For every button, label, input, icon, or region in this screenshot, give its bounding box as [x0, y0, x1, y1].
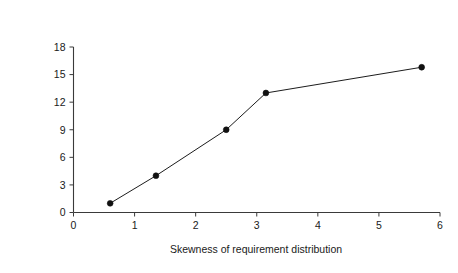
x-tick-label: 5 — [376, 219, 382, 231]
chart-figure: 0369121518 0123456 Skewness of requireme… — [0, 0, 458, 273]
data-point — [223, 127, 229, 133]
y-tick-label: 15 — [54, 68, 66, 80]
y-tick-label: 3 — [60, 179, 66, 191]
y-tick-label: 18 — [54, 41, 66, 53]
chart-axes — [74, 47, 441, 213]
data-point — [419, 64, 425, 70]
y-axis-ticks: 0369121518 — [54, 41, 74, 219]
data-series — [107, 64, 424, 206]
y-tick-label: 12 — [54, 96, 66, 108]
line-chart-canvas: 0369121518 0123456 Skewness of requireme… — [0, 0, 458, 273]
x-axis-ticks: 0123456 — [71, 213, 444, 231]
x-tick-label: 6 — [437, 219, 443, 231]
y-tick-label: 0 — [60, 206, 66, 218]
x-tick-label: 0 — [71, 219, 77, 231]
y-tick-label: 6 — [60, 151, 66, 163]
series-line-path — [110, 67, 422, 203]
data-point — [107, 200, 113, 206]
x-tick-label: 3 — [254, 219, 260, 231]
y-tick-label: 9 — [60, 124, 66, 136]
series-markers — [107, 64, 424, 206]
x-tick-label: 2 — [193, 219, 199, 231]
data-point — [153, 173, 159, 179]
data-point — [263, 90, 269, 96]
x-tick-label: 1 — [132, 219, 138, 231]
x-tick-label: 4 — [315, 219, 321, 231]
x-axis-title: Skewness of requirement distribution — [170, 243, 342, 255]
